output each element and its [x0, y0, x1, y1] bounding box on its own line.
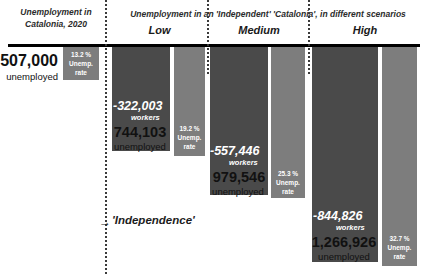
medium-unemployed-label: unemployed [206, 186, 270, 197]
high-rate-line2: rate [382, 253, 417, 261]
low-delta-unit: workers [131, 113, 160, 122]
low-unemployed-number: 744,103 [110, 124, 170, 140]
medium-rate-line2: rate [271, 188, 305, 196]
independence-arrow-icon: → [99, 215, 111, 229]
medium-unemployed-number: 979,546 [208, 169, 270, 185]
high-unemployed-number: 1,266,926 [308, 234, 380, 250]
divider-independence [105, 0, 107, 274]
low-rate-value: 19.2 % [174, 125, 205, 133]
high-rate-line1: Unemp. [382, 244, 417, 252]
scenarios-title: Unemployment in an 'Independent' 'Catalo… [118, 9, 418, 19]
medium-rate-value: 25.3 % [271, 170, 305, 178]
medium-delta-workers: -557,446 [210, 144, 259, 158]
scenario-label-medium: Medium [210, 24, 308, 36]
baseline-unemployed-label: unemployed [0, 71, 58, 82]
left-panel-title: Unemployment in Catalonia, 2020 [6, 6, 106, 30]
high-rate-value: 32.7 % [382, 235, 417, 243]
baseline-rate-value: 13.2 % [63, 51, 99, 59]
medium-delta-unit: workers [229, 158, 258, 167]
divider-medium-high [308, 0, 310, 74]
high-unemployed-label: unemployed [308, 251, 380, 262]
scenario-label-high: High [312, 24, 418, 36]
bar-high-rate [382, 47, 417, 266]
baseline-rate-line2: rate [63, 69, 99, 77]
baseline-rate-line1: Unemp. [63, 60, 99, 68]
divider-low-medium [207, 0, 209, 74]
infographic-canvas: Unemployment in Catalonia, 2020 Unemploy… [0, 0, 425, 274]
baseline-unemployed-number: 507,000 [0, 52, 58, 70]
high-delta-unit: workers [336, 223, 365, 232]
low-rate-line1: Unemp. [174, 134, 205, 142]
high-delta-workers: -844,826 [313, 209, 362, 223]
low-rate-line2: rate [174, 143, 205, 151]
baseline-rate-box: 13.2 % Unemp. rate [63, 47, 99, 80]
low-delta-workers: -322,003 [113, 99, 162, 113]
medium-rate-line1: Unemp. [271, 179, 305, 187]
low-unemployed-label: unemployed [110, 141, 170, 152]
independence-label: 'Independence' [112, 214, 195, 226]
scenario-label-low: Low [112, 24, 207, 36]
